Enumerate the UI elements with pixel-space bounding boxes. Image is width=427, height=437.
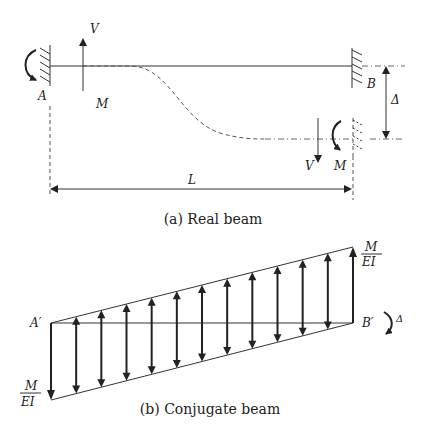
label-deflection: Δ <box>390 93 400 107</box>
label-moment-right: M <box>333 159 347 173</box>
shear-arrow-down-icon <box>314 155 322 163</box>
caption-conjugate-beam: (b) Conjugate beam <box>140 401 280 417</box>
label-conjugate-delta: Δ <box>395 313 403 324</box>
label-load-top-num: M <box>364 240 378 254</box>
label-moment-left: M <box>95 97 109 111</box>
fixed-support-left-icon <box>40 45 50 86</box>
label-length: L <box>187 173 196 187</box>
real-beam: V M A B Δ V M L (a) Real beam <box>26 22 406 227</box>
caption-real-beam: (a) Real beam <box>164 211 263 227</box>
label-load-bottom-den: EI <box>20 395 35 409</box>
fixed-support-right-icon <box>352 48 362 88</box>
conjugate-beam: A′ B′ M EI M EI Δ (b) Conjugate beam <box>20 240 403 417</box>
shear-arrow-up-icon <box>79 38 87 46</box>
label-load-bottom-num: M <box>24 379 38 393</box>
deflected-shape <box>83 66 265 139</box>
displaced-support-icon <box>353 118 362 156</box>
moment-arc-left-icon <box>26 50 37 80</box>
moment-arc-conjugate-icon <box>384 312 392 334</box>
label-b-prime: B′ <box>361 316 374 330</box>
label-a-prime: A′ <box>29 316 42 330</box>
label-support-b: B <box>366 77 376 91</box>
label-shear-right: V <box>305 159 315 173</box>
label-load-top-den: EI <box>361 255 376 269</box>
label-shear-left: V <box>90 22 100 36</box>
beam-diagram: V M A B Δ V M L (a) Real beam A′ B′ M EI… <box>0 0 427 437</box>
moment-arc-right-icon <box>333 121 341 150</box>
label-support-a: A <box>37 89 47 103</box>
